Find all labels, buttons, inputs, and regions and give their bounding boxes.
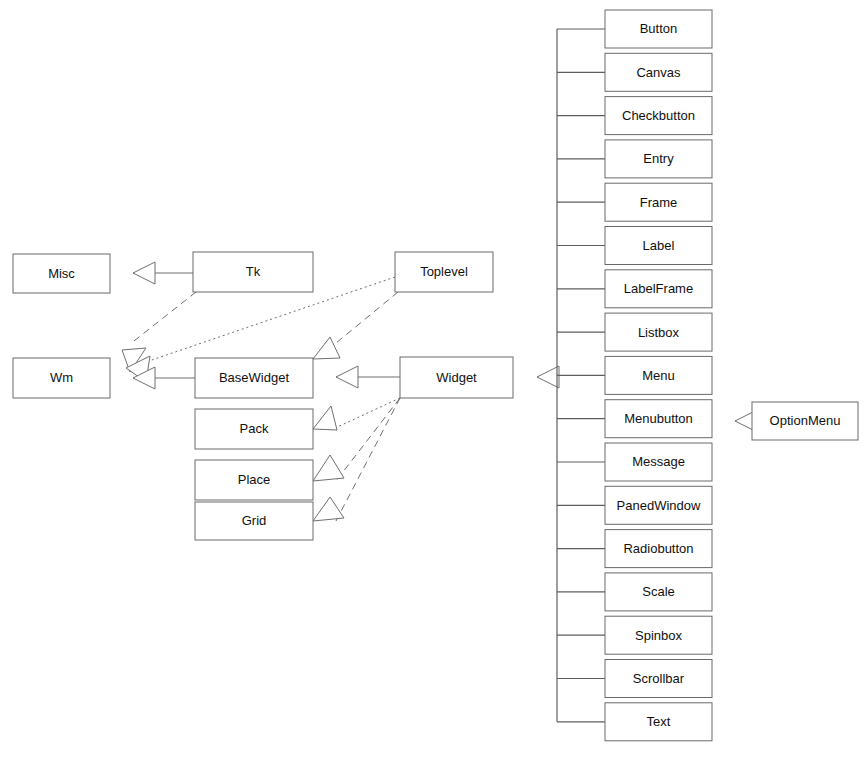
class-box-menubutton[interactable]: Menubutton bbox=[605, 400, 712, 438]
class-box-scale-label: Scale bbox=[642, 584, 675, 599]
class-box-spinbox-label: Spinbox bbox=[635, 628, 682, 643]
relation-tk-wm bbox=[122, 292, 196, 372]
class-box-entry[interactable]: Entry bbox=[605, 140, 712, 178]
class-box-checkbutton[interactable]: Checkbutton bbox=[605, 97, 712, 135]
class-box-frame-label: Frame bbox=[640, 195, 678, 210]
generalization-arrowhead-widgets-widget bbox=[537, 366, 559, 388]
class-box-scrollbar-label: Scrollbar bbox=[633, 671, 685, 686]
relation-line-tk-wm bbox=[134, 292, 196, 341]
class-box-frame[interactable]: Frame bbox=[605, 183, 712, 221]
relation-line-widget-pack bbox=[333, 398, 400, 429]
relation-widgets-widget bbox=[537, 366, 559, 388]
class-box-labelframe[interactable]: LabelFrame bbox=[605, 270, 712, 308]
class-box-widget-label: Widget bbox=[436, 370, 477, 385]
class-box-pack[interactable]: Pack bbox=[195, 409, 313, 449]
class-box-place[interactable]: Place bbox=[195, 460, 313, 500]
class-box-basewidget-label: BaseWidget bbox=[219, 370, 289, 385]
class-box-canvas-label: Canvas bbox=[636, 65, 681, 80]
class-box-wm-label: Wm bbox=[50, 370, 73, 385]
class-box-optionmenu[interactable]: OptionMenu bbox=[752, 402, 858, 440]
relation-line-toplevel-basewidget bbox=[330, 292, 398, 348]
class-box-menu[interactable]: Menu bbox=[605, 356, 712, 394]
relation-widget-pack bbox=[313, 398, 400, 430]
class-box-scrollbar[interactable]: Scrollbar bbox=[605, 660, 712, 698]
class-box-labelframe-label: LabelFrame bbox=[624, 281, 693, 296]
generalization-arrowhead-tk-misc bbox=[133, 262, 155, 284]
relation-toplevel-basewidget bbox=[313, 292, 398, 359]
generalization-arrowhead-widget-place bbox=[313, 455, 344, 481]
class-box-optionmenu-label: OptionMenu bbox=[770, 413, 841, 428]
generalization-arrowhead-toplevel-basewidget bbox=[313, 337, 340, 359]
inheritance-spine bbox=[557, 29, 605, 722]
class-box-radiobutton-label: Radiobutton bbox=[623, 541, 693, 556]
class-box-grid-label: Grid bbox=[242, 513, 267, 528]
class-box-text[interactable]: Text bbox=[605, 703, 712, 741]
generalization-arrowhead-widget-grid bbox=[313, 497, 344, 521]
class-box-listbox[interactable]: Listbox bbox=[605, 313, 712, 351]
relation-widget-basewidget bbox=[336, 366, 400, 388]
class-box-grid[interactable]: Grid bbox=[195, 502, 313, 540]
class-box-message-label: Message bbox=[632, 454, 685, 469]
class-box-button-label: Button bbox=[640, 21, 678, 36]
class-box-canvas[interactable]: Canvas bbox=[605, 53, 712, 91]
class-box-basewidget[interactable]: BaseWidget bbox=[195, 358, 313, 398]
class-box-label-label: Label bbox=[643, 238, 675, 253]
diagram-canvas: MiscTkToplevelWmBaseWidgetWidgetPackPlac… bbox=[0, 0, 868, 758]
class-box-button[interactable]: Button bbox=[605, 10, 712, 48]
class-box-toplevel[interactable]: Toplevel bbox=[395, 252, 493, 292]
class-box-scale[interactable]: Scale bbox=[605, 573, 712, 611]
class-box-wm[interactable]: Wm bbox=[13, 358, 110, 398]
class-box-misc[interactable]: Misc bbox=[13, 254, 110, 293]
class-box-pack-label: Pack bbox=[240, 421, 269, 436]
relation-widget-place bbox=[313, 398, 400, 481]
generalization-arrowhead-widget-pack bbox=[313, 406, 337, 430]
class-box-panedwindow[interactable]: PanedWindow bbox=[605, 486, 712, 524]
generalization-arrowhead-widget-basewidget bbox=[336, 366, 358, 388]
class-box-misc-label: Misc bbox=[48, 266, 75, 281]
uml-class-diagram: MiscTkToplevelWmBaseWidgetWidgetPackPlac… bbox=[0, 0, 868, 758]
class-box-entry-label: Entry bbox=[643, 151, 674, 166]
relation-line-widget-grid bbox=[336, 398, 400, 521]
relation-tk-misc bbox=[133, 262, 193, 284]
class-box-checkbutton-label: Checkbutton bbox=[622, 108, 695, 123]
class-box-toplevel-label: Toplevel bbox=[420, 264, 468, 279]
class-box-spinbox[interactable]: Spinbox bbox=[605, 616, 712, 654]
class-box-listbox-label: Listbox bbox=[638, 325, 680, 340]
class-box-menu-label: Menu bbox=[642, 368, 675, 383]
class-box-text-label: Text bbox=[647, 714, 671, 729]
class-box-panedwindow-label: PanedWindow bbox=[617, 498, 701, 513]
class-box-place-label: Place bbox=[238, 472, 271, 487]
class-box-label[interactable]: Label bbox=[605, 227, 712, 265]
relation-line-widget-place bbox=[336, 398, 400, 481]
class-box-radiobutton[interactable]: Radiobutton bbox=[605, 530, 712, 568]
class-box-tk[interactable]: Tk bbox=[193, 252, 313, 292]
class-box-message[interactable]: Message bbox=[605, 443, 712, 481]
class-box-widget[interactable]: Widget bbox=[400, 357, 513, 398]
class-box-tk-label: Tk bbox=[246, 264, 261, 279]
class-box-menubutton-label: Menubutton bbox=[624, 411, 693, 426]
